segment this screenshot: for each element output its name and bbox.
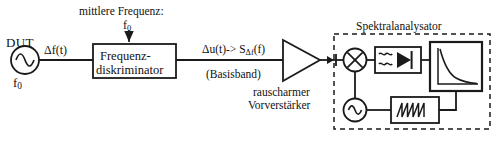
delta-u-signal-tail: (f)	[254, 43, 266, 55]
spektralanalysator-label: Spektralanalysator	[356, 20, 442, 32]
wire-sweep-to-display	[439, 91, 456, 110]
diskriminator-label-line2: diskriminator	[96, 64, 163, 77]
diskriminator-label-line1: Frequenz-	[100, 50, 151, 63]
preamp-label-line1: rauscharmer	[253, 86, 310, 98]
delta-f-signal-label: Δf(t)	[44, 44, 67, 57]
delta-u-signal-subscript: Δf	[246, 48, 254, 57]
dut-source	[11, 46, 39, 74]
basisband-label: (Basisband)	[206, 68, 261, 80]
display-screen-block	[430, 42, 482, 91]
dut-label: DUT	[6, 36, 34, 50]
mittlere-frequenz-label: mittlere Frequenz:	[79, 5, 164, 17]
mixer-block	[344, 49, 367, 72]
preamp-label-line2: Vorverstärker	[248, 99, 310, 111]
filter-detector-block	[375, 47, 421, 73]
delta-u-signal-main: Δu(t)-> S	[202, 43, 246, 55]
mittlere-frequenz-subscript: 0	[127, 23, 131, 33]
local-oscillator-block	[344, 99, 367, 122]
mittlere-frequenz-value-label: f0	[123, 19, 131, 33]
delta-u-signal-label: Δu(t)-> SΔf(f)	[202, 43, 265, 58]
sweep-generator-block	[391, 97, 439, 123]
diagram-canvas: DUT f0 Δf(t) mittlere Frequenz: f0 Frequ…	[0, 0, 497, 142]
dut-frequency-subscript: 0	[17, 81, 22, 91]
preamplifier-block	[283, 40, 320, 81]
dut-frequency-label: f0	[13, 76, 22, 92]
